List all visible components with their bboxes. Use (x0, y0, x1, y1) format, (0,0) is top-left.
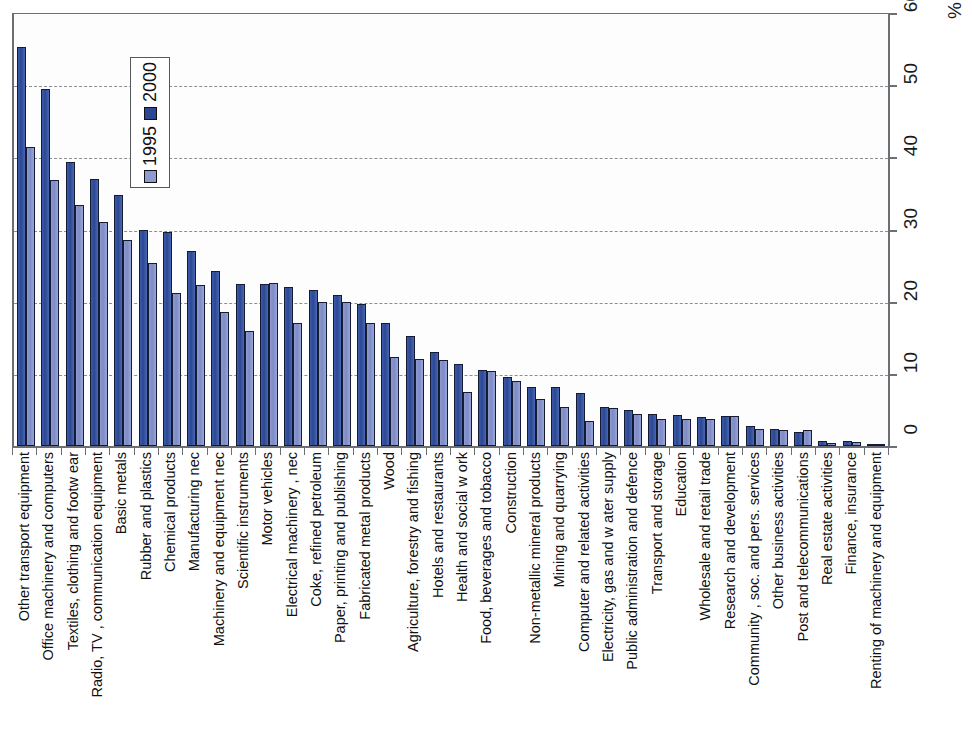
x-tick (888, 446, 889, 455)
bar-1995 (536, 399, 545, 446)
bar-1995 (560, 407, 569, 446)
category-label: Basic metals (114, 452, 129, 534)
bar-1995 (26, 147, 35, 446)
y-axis-unit-label: % (944, 2, 966, 19)
y-tick-label-20: 20 (900, 280, 944, 301)
bar-2000 (746, 426, 755, 446)
bar-2000 (624, 410, 633, 446)
bar-chart: 2000 1995 0102030405060 % Other transpor… (0, 0, 972, 744)
bar-1995 (75, 205, 84, 446)
category-label-slot: Hotels and restaurants (426, 452, 450, 742)
category-label-slot: Non-metallic mineral products (523, 452, 547, 742)
category-label: Office machinery and computers (41, 452, 56, 660)
bar-1995 (657, 419, 666, 446)
bar-1995 (269, 283, 278, 446)
legend-swatch-2000-icon (144, 107, 157, 120)
legend-swatch-1995-icon (144, 170, 157, 183)
category-label: Machinery and equipment nec (212, 452, 227, 646)
category-label: Renting of machinery and equipment (868, 452, 883, 689)
bar-1995 (196, 285, 205, 446)
bar-1995 (706, 419, 715, 446)
bar-group (791, 14, 815, 446)
category-label: Scientific instruments (236, 452, 251, 589)
bar-2000 (357, 304, 366, 446)
category-label-slot: Fabricated metal products (353, 452, 377, 742)
bar-2000 (17, 47, 26, 446)
bar-1995 (439, 360, 448, 446)
category-label-slot: Community , soc. and pers. services (742, 452, 766, 742)
category-label: Hotels and restaurants (430, 452, 445, 598)
bar-group (281, 14, 305, 446)
category-label-slot: Food, beverages and tobacco (474, 452, 498, 742)
category-label-slot: Health and social w ork (450, 452, 474, 742)
bar-1995 (318, 302, 327, 446)
category-label: Manufacturing nec (187, 452, 202, 571)
y-tick-label-10: 10 (900, 352, 944, 373)
bar-group (572, 14, 596, 446)
bar-2000 (41, 89, 50, 446)
y-tick-20 (888, 302, 897, 304)
category-label-slot: Motor vehicles (255, 452, 279, 742)
bar-2000 (333, 295, 342, 446)
bar-group (645, 14, 669, 446)
legend-label-1995: 1995 (141, 126, 159, 166)
category-label: Construction (503, 452, 518, 533)
category-label: Textiles, clothing and footw ear (66, 452, 81, 650)
bar-2000 (381, 323, 390, 446)
bar-group (864, 14, 888, 446)
category-label-slot: Radio, TV , communication equipment (85, 452, 109, 742)
bar-group (475, 14, 499, 446)
category-label-slot: Office machinery and computers (36, 452, 60, 742)
bar-2000 (211, 271, 220, 446)
category-label: Other business activities (771, 452, 786, 609)
bar-1995 (415, 359, 424, 446)
category-label: Motor vehicles (260, 452, 275, 545)
bar-1995 (585, 421, 594, 446)
category-label-slot: Computer and related activities (572, 452, 596, 742)
bar-2000 (721, 416, 730, 446)
legend-label-2000: 2000 (141, 62, 159, 102)
category-label-slot: Agriculture, forestry and fishing (401, 452, 425, 742)
category-label: Community , soc. and pers. services (747, 452, 762, 686)
bar-2000 (770, 429, 779, 446)
bar-2000 (139, 230, 148, 447)
bar-group (718, 14, 742, 446)
category-label-slot: Textiles, clothing and footw ear (61, 452, 85, 742)
category-label: Wood (382, 452, 397, 490)
bar-group (14, 14, 38, 446)
category-label: Public administration and defence (625, 452, 640, 670)
bar-2000 (309, 290, 318, 446)
bar-group (38, 14, 62, 446)
legend-entry-1995: 1995 (141, 126, 159, 183)
bar-1995 (342, 302, 351, 446)
bar-group (354, 14, 378, 446)
y-tick-40 (888, 157, 897, 159)
y-tick-label-60: 60 (900, 0, 944, 12)
category-label: Education (674, 452, 689, 517)
category-label-slot: Machinery and equipment nec (207, 452, 231, 742)
bar-group (184, 14, 208, 446)
bar-1995 (512, 381, 521, 446)
bar-1995 (293, 323, 302, 446)
category-label-slot: Scientific instruments (231, 452, 255, 742)
category-label-slot: Construction (499, 452, 523, 742)
bar-group (548, 14, 572, 446)
category-label-slot: Chemical products (158, 452, 182, 742)
bar-1995 (487, 371, 496, 446)
category-label-slot: Electricity, gas and w ater supply (596, 452, 620, 742)
category-label-slot: Research and development (718, 452, 742, 742)
bar-group (451, 14, 475, 446)
category-label-slot: Education (669, 452, 693, 742)
category-label: Fabricated metal products (358, 452, 373, 620)
bar-2000 (697, 417, 706, 446)
category-label: Computer and related activities (576, 452, 591, 652)
category-label-slot: Manufacturing nec (182, 452, 206, 742)
bar-1995 (172, 293, 181, 446)
bar-1995 (245, 331, 254, 446)
bar-group (597, 14, 621, 446)
bar-group (524, 14, 548, 446)
category-label-slot: Coke, refined petroleum (304, 452, 328, 742)
y-tick-label-0: 0 (900, 424, 944, 435)
category-label: Mining and quarrying (552, 452, 567, 587)
y-tick-60 (888, 13, 897, 15)
